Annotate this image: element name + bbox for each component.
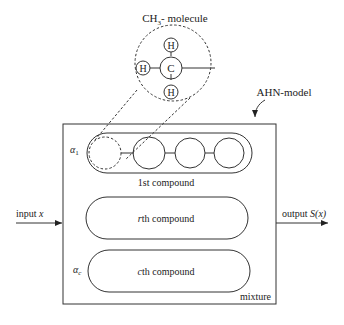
atom-hydrogen-top: H <box>164 38 178 52</box>
molecule-1-dashed <box>89 137 121 169</box>
compound-c-label: cth compound <box>138 266 195 277</box>
input-label: input x <box>16 208 44 219</box>
svg-text:H: H <box>139 63 146 74</box>
zoom-projection-right <box>125 98 190 160</box>
compound-c: αc cth compound <box>73 250 250 292</box>
svg-text:C: C <box>167 62 174 74</box>
molecule-4 <box>214 138 244 168</box>
compound-r-label: rth compound <box>138 213 194 224</box>
molecule-3 <box>175 138 205 168</box>
output-label: output S(x) <box>282 208 327 220</box>
compound-1-weight: α1 <box>70 144 79 157</box>
molecule-2 <box>133 137 165 169</box>
model-pointer-arrow <box>255 100 265 117</box>
model-label: AHN-model <box>257 86 312 98</box>
ahn-mixture-diagram: CH3- molecule C H H H AHN-model mixture … <box>0 0 344 325</box>
atom-hydrogen-bottom: H <box>164 85 178 99</box>
compound-1: α1 1st compound <box>70 133 252 188</box>
compound-1-label: 1st compound <box>138 177 194 188</box>
compound-r: rth compound <box>86 197 248 239</box>
compound-c-weight: αc <box>73 264 82 277</box>
svg-text:H: H <box>167 40 174 51</box>
svg-text:H: H <box>167 87 174 98</box>
mixture-label: mixture <box>240 291 272 302</box>
atom-hydrogen-left: H <box>136 61 150 75</box>
